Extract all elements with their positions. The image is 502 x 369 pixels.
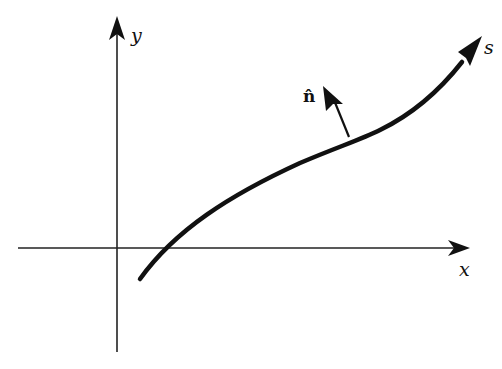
y-axis — [109, 16, 125, 352]
curve-s — [140, 36, 482, 279]
y-axis-label: y — [130, 24, 142, 46]
x-axis-label: x — [459, 258, 470, 280]
x-axis — [18, 240, 470, 256]
normal-vector — [323, 86, 349, 137]
normal-arrowhead-icon — [323, 86, 343, 111]
curve-label: s — [484, 36, 494, 58]
normal-vector-label: n̂ — [303, 86, 315, 106]
curve-normal-diagram: y x s n̂ — [0, 0, 502, 369]
